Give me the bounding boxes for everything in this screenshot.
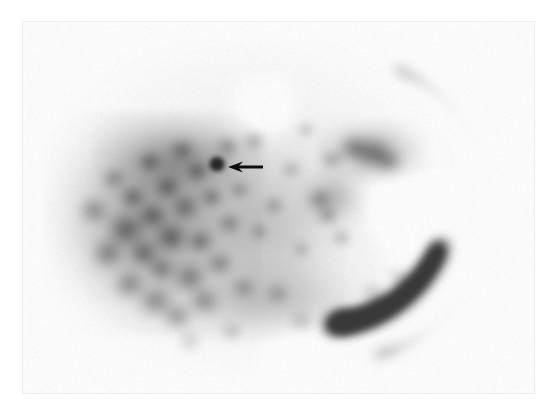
scan-image-frame bbox=[22, 21, 535, 394]
screenshot-page: Planar nuclear-medicine emission image; … bbox=[0, 0, 556, 418]
nuclear-medicine-scan-image bbox=[23, 22, 534, 393]
